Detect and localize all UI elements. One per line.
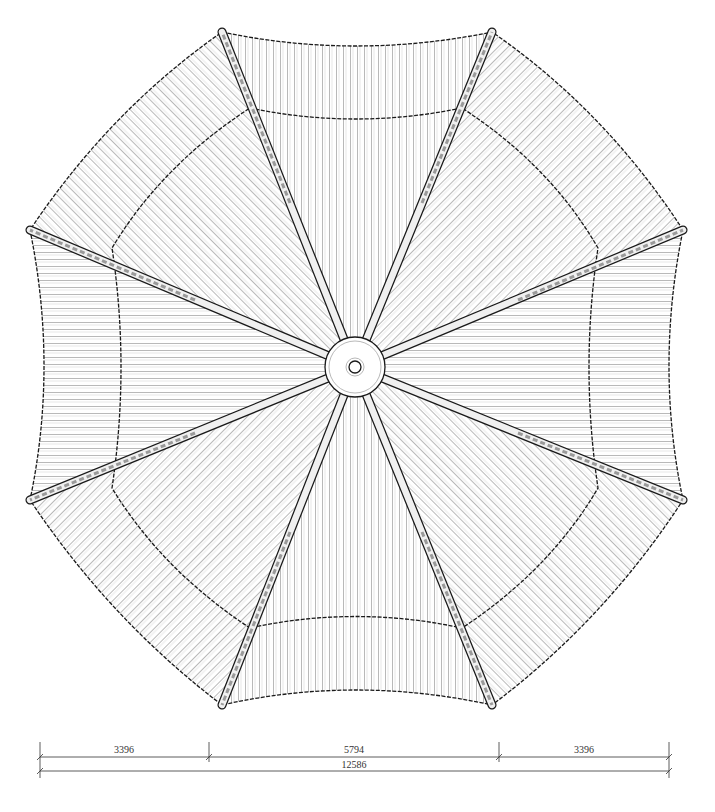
dimension-label-right: 3396 bbox=[574, 744, 594, 755]
dimension-label-left: 3396 bbox=[114, 744, 134, 755]
central-finial bbox=[325, 337, 385, 397]
dimension-label-center: 5794 bbox=[344, 744, 364, 755]
dimension-label-total: 12586 bbox=[342, 759, 367, 770]
roof-plan-drawing: 3396 5794 3396 12586 bbox=[0, 0, 715, 812]
